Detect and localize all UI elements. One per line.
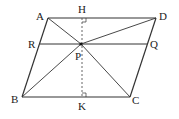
segment-PC (81, 44, 130, 97)
label-R: R (28, 38, 36, 50)
label-C: C (132, 94, 139, 106)
label-B: B (11, 93, 18, 105)
segment-PA (48, 18, 81, 44)
point-P-dot (79, 42, 82, 45)
label-K: K (78, 100, 86, 112)
segment-PD (81, 18, 156, 44)
label-D: D (159, 10, 167, 22)
label-A: A (36, 10, 44, 22)
side-DC (130, 18, 156, 97)
parallelogram-diagram: A H D R Q P B K C (0, 0, 179, 119)
label-H: H (78, 3, 86, 15)
label-Q: Q (150, 38, 158, 50)
label-P: P (75, 50, 81, 62)
